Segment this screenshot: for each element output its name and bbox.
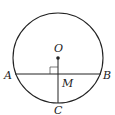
center-point-o <box>56 56 60 60</box>
label-a: A <box>3 69 12 82</box>
geometry-diagram: O A B M C <box>0 0 115 115</box>
right-angle-marker <box>50 67 58 74</box>
label-m: M <box>61 77 74 90</box>
label-o: O <box>54 42 63 55</box>
label-b: B <box>102 69 111 82</box>
label-c: C <box>54 104 63 115</box>
